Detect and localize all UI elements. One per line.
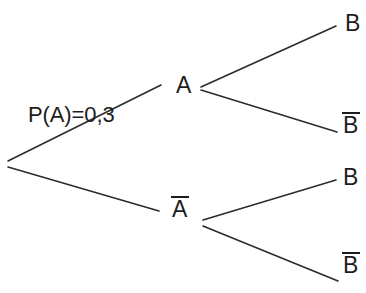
probability-label-p-a: P(A)=0,3	[28, 104, 115, 126]
tree-edges-layer	[0, 0, 366, 293]
node-label-b-complement-upper: B	[343, 112, 359, 137]
node-label-b-complement-lower: B	[343, 252, 359, 277]
node-label-b-lower: B	[343, 166, 359, 189]
node-label-a: A	[176, 74, 192, 97]
edge-a-to-b-bar	[201, 90, 337, 132]
edge-a-bar-to-b-bar	[203, 226, 338, 281]
node-b1-text: B	[345, 10, 361, 36]
node-b1-bar-text: B	[343, 112, 359, 137]
edge-root-to-a-bar	[8, 167, 159, 211]
node-a-bar-text: A	[172, 196, 188, 221]
node-label-a-complement: A	[172, 196, 188, 221]
node-a-text: A	[176, 72, 192, 98]
edge-a-to-b	[201, 26, 336, 87]
probability-tree-diagram: P(A)=0,3 A A B B B B	[0, 0, 366, 293]
edge-a-bar-to-b	[203, 180, 336, 220]
node-label-b-upper: B	[345, 12, 361, 35]
node-b2-text: B	[343, 164, 359, 190]
node-b2-bar-text: B	[343, 252, 359, 277]
